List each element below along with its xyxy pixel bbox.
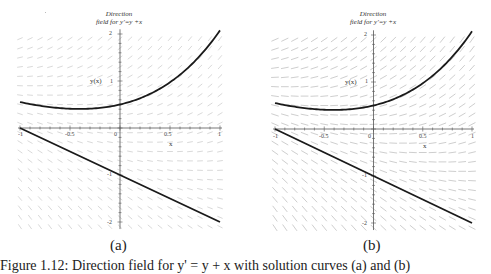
figure-caption: Figure 1.12: Direction field for y' = y … — [0, 258, 491, 274]
subfigure-label: (a) — [110, 237, 127, 254]
ytick-neg1: -1 — [107, 171, 112, 177]
ytick-1: 1 — [110, 78, 113, 84]
xtick-neg05: -0.5 — [319, 133, 329, 139]
panel-a: Direction field for y'=y +x 2 1 -1 -2 -1… — [0, 0, 245, 267]
panel-b: Direction field for y'=y +x 2 1 -1 -2 -1… — [245, 0, 490, 267]
y-axis-label: y(x) — [345, 78, 357, 86]
ytick-neg2: -2 — [107, 219, 112, 225]
title-line-2: field for y'=y +x — [328, 18, 418, 26]
subfigure-label: (b) — [363, 237, 381, 254]
xtick-1: 1 — [218, 131, 221, 137]
xtick-0: 0 — [368, 133, 371, 139]
xtick-1: 1 — [471, 133, 474, 139]
xtick-05: 0.5 — [164, 131, 172, 137]
title-line-2: field for y'=y +x — [74, 18, 164, 26]
xtick-neg1: -1 — [273, 133, 278, 139]
ytick-2: 2 — [109, 30, 112, 36]
ytick-neg2: -2 — [362, 220, 367, 226]
title-line-1: Direction — [74, 10, 164, 18]
x-axis-label: x — [423, 142, 427, 150]
plot-b-title: Direction field for y'=y +x — [328, 10, 418, 26]
ytick-2: 2 — [364, 31, 367, 37]
xtick-neg05: -0.5 — [65, 131, 75, 137]
ytick-1: 1 — [365, 78, 368, 84]
xtick-05: 0.5 — [419, 133, 427, 139]
x-axis-label: x — [169, 140, 173, 148]
ytick-neg1: -1 — [362, 172, 367, 178]
plot-a-title: Direction field for y'=y +x — [74, 10, 164, 26]
y-axis-label: y(x) — [90, 77, 102, 85]
xtick-0: 0 — [114, 131, 117, 137]
plot-a — [0, 0, 245, 267]
title-line-1: Direction — [328, 10, 418, 18]
xtick-neg1: -1 — [18, 131, 23, 137]
